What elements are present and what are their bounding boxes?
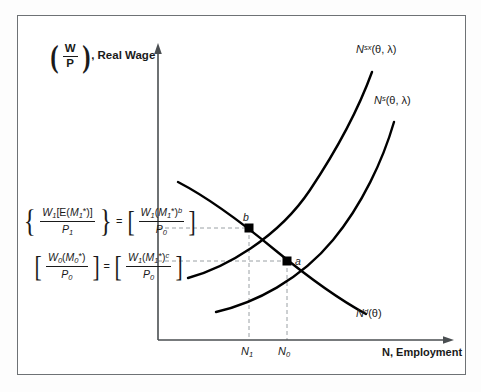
row1-right-fraction: W1(M1*)b P0: [136, 205, 188, 238]
row2-right-m: M: [146, 251, 155, 263]
curve-ns-args: (θ, λ): [386, 94, 411, 106]
x-tick-label-n1: N1: [241, 346, 253, 358]
row2-right-p-sub: 0: [150, 273, 154, 282]
x-tick-label-n0: N0: [278, 346, 290, 358]
row2-left-fraction: W0(M0*) P0: [43, 250, 91, 283]
curve-ns-base: N: [374, 94, 382, 106]
row1-brace-open: {: [24, 208, 36, 235]
y-label-fraction: W P: [60, 42, 81, 70]
row1-equals: =: [113, 215, 125, 227]
point-marker-b: [245, 224, 254, 233]
row1-left-p: P: [62, 223, 69, 235]
row1-left-m: M: [70, 206, 79, 218]
row1-right-denominator: P0: [154, 222, 169, 238]
tick-n0-base: N: [278, 345, 286, 357]
row2-left-denominator: P0: [59, 267, 74, 283]
row2-right-numerator: W1(M1*)c: [126, 250, 171, 266]
row2-bracket-close-right: ]: [176, 253, 183, 279]
row1-right-w: W: [141, 206, 151, 218]
y-label-paren-close: ): [82, 43, 90, 70]
row1-right-numerator: W1(M1*)b: [139, 205, 185, 221]
tick-n1-base: N: [241, 345, 249, 357]
row1-left-w: W: [42, 206, 52, 218]
row1-left-close: )]: [86, 206, 92, 218]
x-axis-arrowhead: [443, 336, 454, 344]
row1-left-fraction: W1[E(M1*)] P1: [37, 205, 97, 238]
figure-container: ( W P ) , Real Wage N, Employment N1 N0 …: [0, 0, 481, 392]
curve-nsx-base: N: [356, 43, 364, 55]
row1-right-p: P: [156, 223, 163, 235]
y-axis-label: ( W P ) , Real Wage: [49, 42, 155, 70]
curve-nd-base: N: [356, 307, 364, 319]
row1-right-sup: b: [178, 206, 182, 215]
row1-bracket-open: [: [127, 208, 134, 234]
row2-bracket-open-right: [: [114, 253, 121, 279]
curves-group: [178, 72, 394, 314]
curve-nd: [178, 182, 366, 314]
row2-right-w: W: [128, 251, 138, 263]
row2-right-denominator: P0: [141, 267, 156, 283]
row2-right-fraction: W1(M1*)c P0: [123, 250, 174, 283]
curve-nd-args: (θ): [368, 307, 381, 319]
row1-bracket-close: ]: [189, 208, 196, 234]
row1-brace-close: }: [99, 208, 111, 235]
row2-bracket-open-left: [: [34, 253, 41, 279]
row2-left-close: ): [82, 251, 86, 263]
row1-right-m: M: [158, 206, 167, 218]
y-label-paren-open: (: [50, 43, 58, 70]
equation-row-1: { W1[E(M1*)] P1 } = [ W1(M1*)b P0 ]: [22, 205, 197, 238]
row2-left-numerator: W0(M0*): [46, 250, 88, 266]
x-axis-label: N, Employment: [382, 347, 462, 358]
row2-right-sup: c: [166, 251, 170, 260]
row1-right-p-sub: 0: [163, 228, 167, 237]
curve-nsx: [188, 72, 372, 278]
row1-left-open: [E(: [56, 206, 69, 218]
curve-label-ns: Ns(θ, λ): [374, 95, 411, 106]
equation-row-2: [ W0(M0*) P0 ] = [ W1(M1*)c P0 ]: [33, 250, 184, 283]
row2-left-p-sub: 0: [68, 273, 72, 282]
point-label-b: b: [243, 212, 249, 223]
row2-right-p: P: [143, 268, 150, 280]
curve-nsx-args: (θ, λ): [371, 43, 396, 55]
row1-left-denominator: P1: [60, 222, 75, 238]
point-label-a: a: [295, 256, 301, 267]
row2-equals: =: [101, 260, 113, 272]
row2-bracket-close-left: ]: [92, 253, 99, 279]
tick-n1-sub: 1: [249, 350, 253, 359]
tick-n0-sub: 0: [286, 350, 290, 359]
row1-left-numerator: W1[E(M1*)]: [40, 205, 94, 221]
curve-label-nsx: Nsx(θ, λ): [356, 44, 397, 55]
point-marker-a: [283, 257, 292, 266]
y-label-text: , Real Wage: [91, 50, 155, 62]
curve-label-nd: Nd(θ): [356, 308, 382, 319]
row1-left-p-sub: 1: [69, 228, 73, 237]
row2-left-w: W: [48, 251, 58, 263]
y-label-numerator: W: [63, 42, 78, 56]
y-label-denominator: P: [64, 57, 76, 71]
y-axis-arrowhead: [154, 43, 162, 54]
